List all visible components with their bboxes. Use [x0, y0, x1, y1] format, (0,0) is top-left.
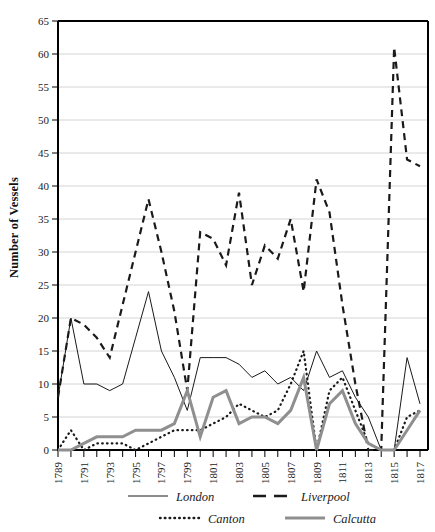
x-tick-label-1795: 1795 [130, 462, 142, 485]
y-tick-label-55: 55 [38, 81, 50, 93]
x-tick-label-1811: 1811 [336, 462, 348, 484]
x-tick-label-1803: 1803 [233, 462, 245, 485]
legend-group: LondonLiverpoolCantonCalcutta [128, 490, 376, 526]
x-tick-label-1813: 1813 [362, 462, 374, 485]
y-tick-label-60: 60 [38, 48, 50, 60]
legend-label-liverpool: Liverpool [300, 490, 350, 504]
x-tick-label-1793: 1793 [104, 462, 116, 485]
x-tick-label-1815: 1815 [388, 462, 400, 485]
y-tick-label-20: 20 [38, 312, 50, 324]
x-tick-label-1797: 1797 [155, 462, 167, 485]
x-tick-label-1789: 1789 [52, 462, 64, 485]
legend-label-london: London [175, 490, 214, 504]
y-tick-label-65: 65 [38, 15, 50, 27]
x-tick-label-1801: 1801 [207, 462, 219, 484]
y-tick-label-10: 10 [38, 378, 50, 390]
x-tick-label-1817: 1817 [414, 462, 426, 485]
y-tick-label-15: 15 [38, 345, 50, 357]
x-tick-label-1805: 1805 [259, 462, 271, 485]
series-line-london [58, 292, 420, 450]
y-tick-label-35: 35 [38, 213, 50, 225]
legend-label-canton: Canton [208, 512, 245, 526]
x-tick-label-1791: 1791 [78, 462, 90, 484]
series-group [58, 47, 420, 450]
y-tick-label-50: 50 [38, 114, 50, 126]
y-tick-label-5: 5 [44, 411, 50, 423]
x-tick-label-1807: 1807 [285, 462, 297, 485]
legend-label-calcutta: Calcutta [333, 512, 376, 526]
gridlines-group: 05101520253035404550556065 [38, 15, 428, 456]
chart-figure: Number of Vessels 0510152025303540455055… [0, 0, 435, 532]
series-line-canton [58, 351, 420, 450]
x-tick-label-1809: 1809 [311, 462, 323, 485]
axes-group [58, 21, 428, 450]
y-tick-label-40: 40 [38, 180, 50, 192]
line-chart-plot: 0510152025303540455055606517891791179317… [0, 0, 435, 532]
y-tick-label-30: 30 [38, 246, 50, 258]
y-tick-label-0: 0 [44, 444, 50, 456]
y-tick-label-45: 45 [38, 147, 50, 159]
y-tick-label-25: 25 [38, 279, 50, 291]
x-ticks-group: 1789179117931795179717991801180318051807… [52, 450, 426, 484]
x-tick-label-1799: 1799 [181, 462, 193, 485]
